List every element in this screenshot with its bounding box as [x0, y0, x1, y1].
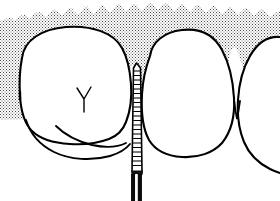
periodontal-probe-group [131, 63, 142, 201]
probe-handle [132, 174, 142, 201]
probe-handle-highlight [135, 174, 138, 201]
dental-illustration: Periodontal probe inserted into interpro… [0, 0, 280, 201]
probe-handle-right-bar [138, 174, 141, 201]
illustration-canvas [0, 0, 280, 201]
probe-shaft [132, 63, 142, 172]
right-tooth-group [142, 30, 234, 157]
probe-handle-left-bar [132, 174, 135, 201]
left-tooth-group [20, 27, 132, 159]
right-tooth-crown [142, 30, 234, 157]
left-tooth-crown [20, 27, 132, 145]
